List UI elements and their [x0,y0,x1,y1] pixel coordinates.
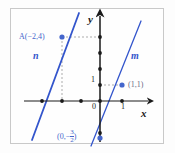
point-B-label: (0,−32) [57,130,76,144]
fraction-denominator: 2 [70,136,74,144]
x-axis-label: x [141,108,147,119]
x-dot-neg2 [60,99,64,103]
point-P-label: (1,1) [128,81,143,89]
point-A-label: A(−2,4) [19,33,45,41]
y-dot-neg2 [98,131,102,135]
x-dot-neg3 [40,99,44,103]
point-B-label-prefix: (0,− [57,132,70,141]
fraction-numerator: 3 [70,129,74,136]
y-axis-label: y [88,14,93,25]
point-B-label-suffix: ) [74,132,77,141]
point-A-marker [59,34,64,39]
y-dot-2 [98,67,102,71]
y-dot-origin [98,99,102,103]
point-B-label-fraction: 32 [70,129,74,143]
point-B-marker [97,135,102,140]
line-m-label: m [131,51,139,61]
y-tick-1-label: 1 [91,76,95,84]
origin-label: 0 [92,103,96,111]
math-figure-coordinate-plane: A(−2,4) (1,1) (0,−32) n m y x 0 1 1 [0,0,175,153]
y-dot-4 [98,35,102,39]
x-dot-neg1 [79,99,83,103]
point-P-marker [119,82,124,87]
y-dot-1 [98,83,102,87]
x-tick-1-label: 1 [121,103,125,111]
line-n-label: n [33,51,39,61]
y-dot-3 [98,51,102,55]
